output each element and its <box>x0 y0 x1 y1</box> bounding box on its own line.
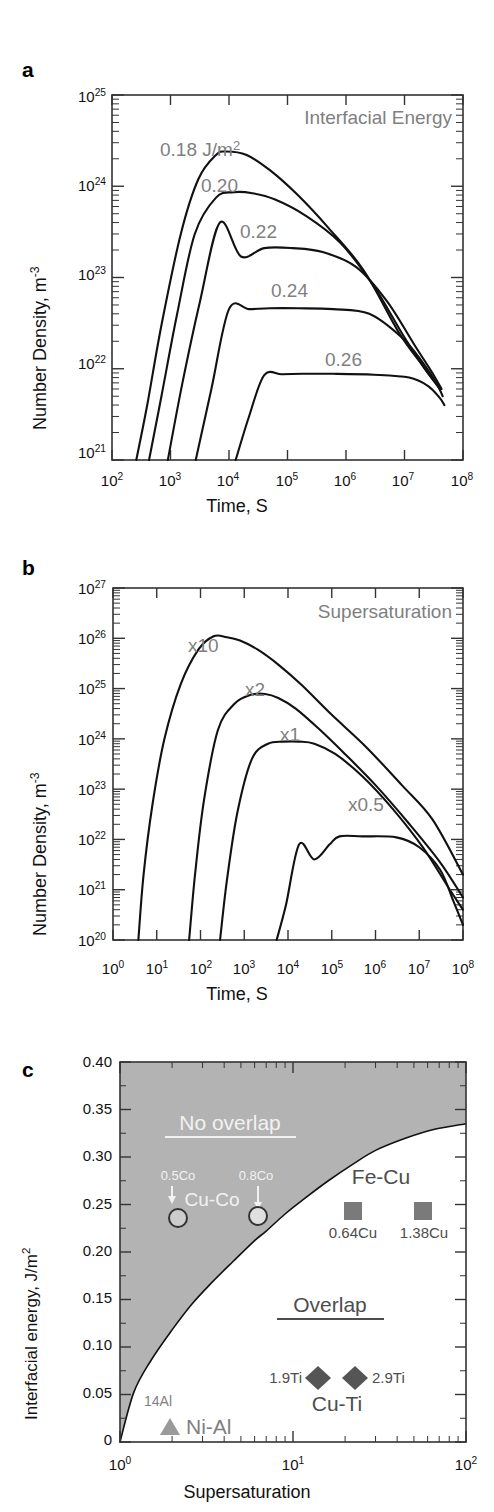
panel-a-xtick-2: 104 <box>203 472 253 489</box>
panel-a-curve-label-3: 0.24 <box>271 280 308 301</box>
marker-14Al <box>160 1418 180 1435</box>
panel-b-xtick-6: 106 <box>352 960 398 977</box>
panel-c-xtick-2: 102 <box>442 1456 490 1473</box>
panel-b-xtick-8: 108 <box>440 960 486 977</box>
series-label-Ni-Al: Ni-Al <box>186 1415 232 1438</box>
panel-b-xtick-4: 104 <box>265 960 311 977</box>
panel-b-xtick-2: 102 <box>178 960 224 977</box>
panel-a-xtick-3: 105 <box>262 472 312 489</box>
panel-b-xlabel: Time, S <box>187 984 287 1005</box>
series-label-Cu-Ti: Cu-Ti <box>312 1392 363 1415</box>
panel-a-curve-label-0: 0.18 J/m2 <box>160 138 240 160</box>
panel-a-legend-title: Interfacial Energy <box>304 107 452 128</box>
panel-c-plot: No overlap Overlap 0.5Co 0.8Co Cu-Co Fe-… <box>0 1020 494 1452</box>
series-label-Fe-Cu: Fe-Cu <box>352 1165 410 1188</box>
panel-b: b Number Density, m-3 1027 1026 1025 102… <box>0 516 494 1020</box>
point-label-1.38Cu: 1.38Cu <box>400 1224 448 1241</box>
panel-a-xtick-5: 107 <box>378 472 428 489</box>
panel-c-xtick-0: 100 <box>96 1456 144 1473</box>
panel-a-xtick-4: 106 <box>320 472 370 489</box>
panel-b-xtick-1: 101 <box>134 960 180 977</box>
point-label-0.64Cu: 0.64Cu <box>329 1224 377 1241</box>
point-label-0.5Co: 0.5Co <box>161 1168 196 1183</box>
series-label-Cu-Co: Cu-Co <box>185 1189 240 1210</box>
marker-1.9Ti <box>305 1366 331 1390</box>
panel-b-curve-label-0: x10 <box>188 635 219 656</box>
point-label-2.9Ti: 2.9Ti <box>372 1369 405 1386</box>
marker-2.9Ti <box>342 1366 368 1390</box>
point-label-1.9Ti: 1.9Ti <box>269 1369 302 1386</box>
overlap-label: Overlap <box>293 1293 367 1316</box>
marker-0.5Co <box>169 1209 187 1227</box>
panel-c: c Interfacial energy, J/m2 0.40 0.35 0.3… <box>0 1020 494 1512</box>
panel-b-xtick-7: 107 <box>396 960 442 977</box>
panel-a-xlabel: Time, S <box>187 496 287 517</box>
panel-b-plot: Supersaturation x10 x2 x1 x0.5 <box>0 516 494 958</box>
panel-b-curve-label-3: x0.5 <box>348 794 384 815</box>
panel-a-plot: Interfacial Energy 0.18 J/m2 0.20 0.22 0… <box>0 0 494 470</box>
panel-c-xtick-1: 101 <box>269 1456 317 1473</box>
panel-a: a Number Density, m-3 1025 1024 1023 102… <box>0 0 494 516</box>
panel-a-xtick-6: 108 <box>437 472 487 489</box>
marker-1.38Cu <box>414 1202 432 1220</box>
panel-a-xtick-1: 103 <box>145 472 195 489</box>
panel-c-xlabel: Supersaturation <box>167 1482 327 1503</box>
marker-0.8Co <box>249 1207 267 1225</box>
panel-b-xtick-3: 103 <box>221 960 267 977</box>
point-label-14Al: 14Al <box>144 1393 172 1409</box>
panel-b-legend-title: Supersaturation <box>318 601 452 622</box>
panel-a-curve-label-1: 0.20 <box>201 175 238 196</box>
no-overlap-label: No overlap <box>179 1111 281 1134</box>
marker-0.64Cu <box>344 1202 362 1220</box>
panel-b-xtick-0: 100 <box>90 960 136 977</box>
panel-b-xtick-5: 105 <box>309 960 355 977</box>
panel-b-curve-label-2: x1 <box>280 724 300 745</box>
point-label-0.8Co: 0.8Co <box>239 1168 274 1183</box>
panel-b-curve-label-1: x2 <box>245 679 265 700</box>
panel-a-curve-label-2: 0.22 <box>240 221 277 242</box>
panel-a-curve-label-4: 0.26 <box>325 349 362 370</box>
panel-a-xtick-0: 102 <box>87 472 137 489</box>
